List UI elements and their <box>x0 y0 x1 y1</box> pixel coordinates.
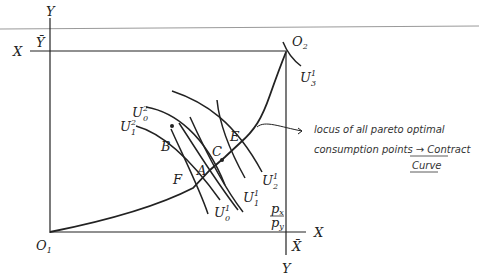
label-u0-1: U10 <box>214 204 230 223</box>
label-y-top-left: Y <box>46 4 56 19</box>
label-u1-2: U21 <box>120 118 136 137</box>
label-point-a: A <box>196 163 206 178</box>
label-u2-1: U12 <box>262 172 278 191</box>
label-u3-1: U13 <box>300 69 316 88</box>
label-x-left: X <box>12 44 23 59</box>
annotation-arrow <box>257 124 302 134</box>
label-u1-1: U11 <box>243 189 259 208</box>
price-ratio-denominator: py <box>271 215 284 231</box>
label-x-right: X <box>313 225 324 240</box>
label-point-e: E <box>229 129 240 144</box>
label-o1: O1 <box>36 238 52 255</box>
page-rule-line <box>0 26 479 29</box>
label-point-c: C <box>212 144 222 159</box>
label-o2: O2 <box>292 34 308 51</box>
label-point-b: B <box>160 139 171 154</box>
label-point-f: F <box>172 172 183 187</box>
annotation-line-3: Curve <box>412 160 442 171</box>
label-y-bottom: Y <box>282 261 292 276</box>
label-xbar: X̄ <box>291 239 302 254</box>
point-b-dot <box>170 124 174 128</box>
annotation-line-2: consumption points → Contract <box>314 144 471 155</box>
annotation-line-1: locus of all pareto optimal <box>314 124 445 135</box>
indifference-curve-u-lower <box>136 126 220 200</box>
edgeworth-box-diagram: Y Ȳ X O2 U13 U20 U21 B C E A F U12 U11 U… <box>0 0 479 280</box>
label-ybar: Ȳ <box>36 35 46 50</box>
